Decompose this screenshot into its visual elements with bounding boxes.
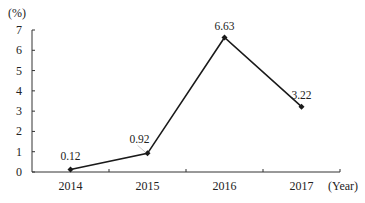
y-tick-label: 0 [16, 165, 22, 179]
y-tick-label: 1 [16, 145, 22, 159]
data-label: 6.63 [214, 20, 234, 32]
x-axis: 2014201520162017 (Year) [32, 169, 358, 193]
data-label: 0.92 [129, 133, 149, 145]
y-tick-label: 2 [16, 124, 22, 138]
y-tick-label: 4 [16, 84, 22, 98]
data-label: 3.22 [291, 89, 311, 101]
y-tick-label: 3 [16, 104, 22, 118]
y-tick-label: 7 [16, 23, 22, 37]
x-tick-label: 2015 [136, 179, 160, 193]
data-series: 0.120.926.633.22 [60, 20, 311, 173]
x-tick-label: 2017 [290, 179, 314, 193]
series-line [71, 38, 302, 170]
x-axis-unit-label: (Year) [328, 179, 358, 193]
x-tick-label: 2014 [59, 179, 83, 193]
x-tick-label: 2016 [213, 179, 237, 193]
line-chart: (%) 01234567 2014201520162017 (Year) 0.1… [0, 0, 365, 203]
y-tick-label: 5 [16, 64, 22, 78]
y-axis: 01234567 [16, 23, 35, 179]
y-tick-label: 6 [16, 43, 22, 57]
data-label: 0.12 [60, 150, 80, 162]
y-axis-unit-label: (%) [8, 6, 26, 20]
